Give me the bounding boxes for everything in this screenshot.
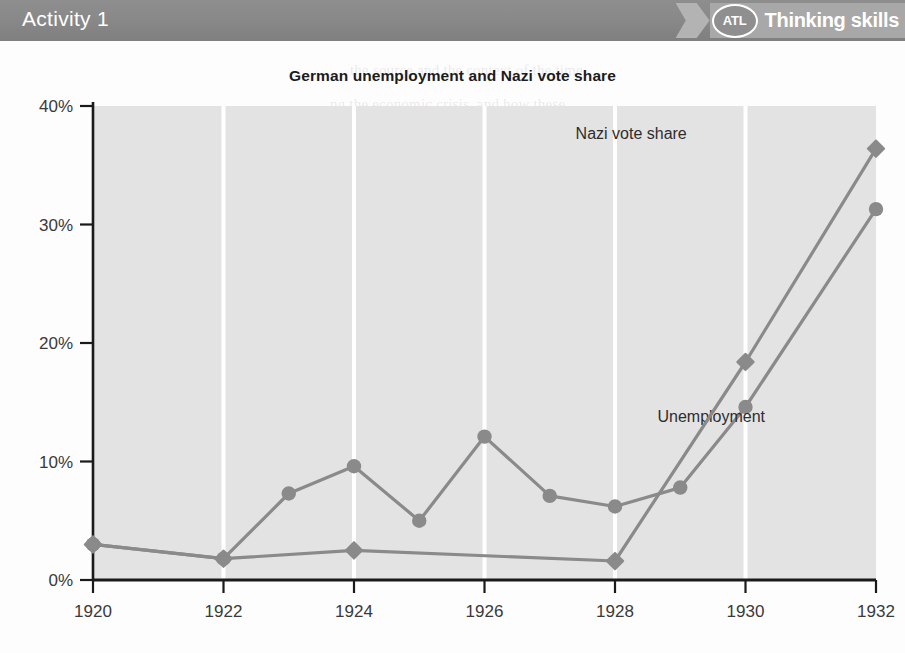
y-axis-tick-label: 10% — [39, 453, 73, 472]
atl-badge-icon: ATL — [712, 4, 758, 38]
data-point-marker — [543, 489, 557, 503]
x-axis-tick-label: 1922 — [205, 602, 243, 621]
y-axis-tick-label: 0% — [48, 571, 73, 590]
x-axis-tick-label: 1920 — [74, 602, 112, 621]
y-axis-tick-label: 20% — [39, 334, 73, 353]
y-axis-tick-label: 30% — [39, 216, 73, 235]
data-point-marker — [608, 499, 622, 513]
atl-ribbon: ATL Thinking skills — [676, 3, 905, 38]
data-point-marker — [347, 459, 361, 473]
y-axis-tick-label: 40% — [39, 97, 73, 116]
x-axis-tick-label: 1932 — [857, 602, 895, 621]
page-title: Activity 1 — [22, 7, 109, 31]
atl-skill-label: Thinking skills — [765, 9, 901, 32]
data-point-marker — [477, 429, 491, 443]
x-axis-tick-label: 1930 — [727, 602, 765, 621]
ribbon-body: ATL Thinking skills — [710, 3, 905, 38]
data-point-marker — [673, 480, 687, 494]
data-point-marker — [869, 202, 883, 216]
data-point-marker — [282, 486, 296, 500]
data-point-marker — [412, 514, 426, 528]
activity-header-bar: Activity 1 ATL Thinking skills — [0, 0, 905, 41]
chart-card: German unemployment and Nazi vote share … — [0, 41, 905, 653]
ribbon-arrow-shape — [676, 3, 710, 38]
x-axis-tick-label: 1924 — [335, 602, 373, 621]
series-label: Nazi vote share — [576, 125, 687, 142]
x-axis-tick-label: 1928 — [596, 602, 634, 621]
x-axis-tick-label: 1926 — [466, 602, 504, 621]
atl-badge-label: ATL — [723, 14, 747, 27]
line-chart: 0%10%20%30%40%19201922192419261928193019… — [0, 41, 905, 653]
